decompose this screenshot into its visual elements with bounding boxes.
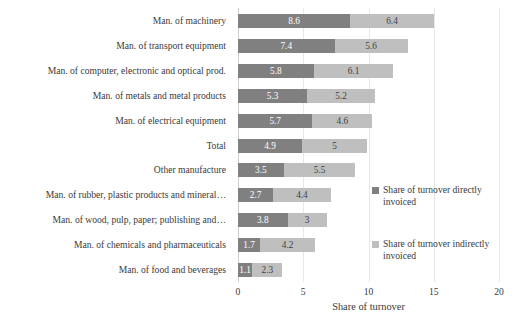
category-label: Man. of food and beverages bbox=[0, 264, 226, 276]
value-axis-tick-label: 5 bbox=[301, 286, 306, 297]
bar-value-label: 1.7 bbox=[243, 240, 255, 250]
bar-value-label: 2.3 bbox=[262, 265, 274, 275]
bar-value-label: 5 bbox=[332, 141, 337, 151]
bar-segment-indirect[interactable]: 5 bbox=[302, 139, 367, 153]
value-axis-tick-label: 20 bbox=[494, 286, 504, 297]
legend-swatch bbox=[372, 187, 379, 194]
bar-row[interactable]: 5.74.6 bbox=[238, 114, 499, 128]
bar-row[interactable]: 3.83 bbox=[238, 213, 499, 227]
bar-value-label: 4.6 bbox=[337, 116, 349, 126]
bar-segment-indirect[interactable]: 5.5 bbox=[284, 163, 356, 177]
bar-segment-direct[interactable]: 7.4 bbox=[238, 39, 335, 53]
bar-value-label: 6.4 bbox=[386, 16, 398, 26]
legend-swatch bbox=[372, 241, 379, 248]
legend-label: Share of turnover indirectly invoiced bbox=[383, 238, 509, 262]
legend-item[interactable]: Share of turnover indirectly invoiced bbox=[372, 238, 509, 262]
bar-row[interactable]: 4.95 bbox=[238, 139, 499, 153]
stacked-bar-chart: Man. of machineryMan. of transport equip… bbox=[0, 0, 521, 331]
category-label: Man. of chemicals and pharmaceuticals bbox=[0, 239, 226, 251]
bar-segment-indirect[interactable]: 4.4 bbox=[273, 188, 330, 202]
bar-row[interactable]: 5.35.2 bbox=[238, 89, 499, 103]
bar-segment-direct[interactable]: 5.7 bbox=[238, 114, 312, 128]
bar-segment-direct[interactable]: 1.7 bbox=[238, 238, 260, 252]
category-label: Other manufacture bbox=[0, 164, 226, 176]
bar-segment-indirect[interactable]: 5.6 bbox=[335, 39, 408, 53]
bar-segment-indirect[interactable]: 4.6 bbox=[312, 114, 372, 128]
bar-segment-indirect[interactable]: 3 bbox=[288, 213, 327, 227]
bar-value-label: 4.2 bbox=[282, 240, 294, 250]
legend-label: Share of turnover directly invoiced bbox=[383, 184, 509, 208]
bar-segment-indirect[interactable]: 2.3 bbox=[252, 263, 282, 277]
category-label: Man. of computer, electronic and optical… bbox=[0, 65, 226, 77]
category-label: Man. of rubber, plastic products and min… bbox=[0, 189, 226, 201]
value-axis-title: Share of turnover bbox=[238, 301, 499, 312]
bar-value-label: 5.6 bbox=[365, 41, 377, 51]
bar-segment-indirect[interactable]: 4.2 bbox=[260, 238, 315, 252]
category-label: Man. of electrical equipment bbox=[0, 115, 226, 127]
bar-value-label: 3.5 bbox=[255, 165, 267, 175]
bar-value-label: 5.7 bbox=[269, 116, 281, 126]
bar-value-label: 5.5 bbox=[314, 165, 326, 175]
bar-value-label: 3 bbox=[305, 215, 310, 225]
bar-value-label: 8.6 bbox=[288, 16, 300, 26]
value-axis-tick-label: 10 bbox=[364, 286, 374, 297]
category-label: Man. of wood, pulp, paper; publishing an… bbox=[0, 214, 226, 226]
bar-segment-indirect[interactable]: 6.4 bbox=[350, 14, 434, 28]
bar-value-label: 5.8 bbox=[270, 66, 282, 76]
bar-row[interactable]: 7.45.6 bbox=[238, 39, 499, 53]
bar-segment-direct[interactable]: 8.6 bbox=[238, 14, 350, 28]
bar-row[interactable]: 3.55.5 bbox=[238, 163, 499, 177]
legend-item[interactable]: Share of turnover directly invoiced bbox=[372, 184, 509, 208]
bar-value-label: 1.1 bbox=[239, 265, 251, 275]
category-label: Man. of metals and metal products bbox=[0, 90, 226, 102]
bar-value-label: 2.7 bbox=[250, 190, 262, 200]
value-axis-tick-label: 15 bbox=[429, 286, 439, 297]
category-label: Total bbox=[0, 140, 226, 152]
value-axis-tick-label: 0 bbox=[236, 286, 241, 297]
bar-segment-direct[interactable]: 1.1 bbox=[238, 263, 252, 277]
bar-row[interactable]: 5.86.1 bbox=[238, 64, 499, 78]
value-axis-ticks: 05101520 bbox=[238, 286, 499, 300]
bar-value-label: 5.2 bbox=[335, 91, 347, 101]
category-label: Man. of machinery bbox=[0, 15, 226, 27]
bar-segment-indirect[interactable]: 6.1 bbox=[314, 64, 394, 78]
category-label: Man. of transport equipment bbox=[0, 40, 226, 52]
bar-segment-direct[interactable]: 5.3 bbox=[238, 89, 307, 103]
bar-row[interactable]: 1.12.3 bbox=[238, 263, 499, 277]
category-axis-labels: Man. of machineryMan. of transport equip… bbox=[0, 0, 232, 282]
bar-value-label: 6.1 bbox=[348, 66, 360, 76]
bar-segment-direct[interactable]: 5.8 bbox=[238, 64, 314, 78]
bar-segment-direct[interactable]: 2.7 bbox=[238, 188, 273, 202]
bar-value-label: 4.4 bbox=[296, 190, 308, 200]
bar-value-label: 7.4 bbox=[280, 41, 292, 51]
bar-segment-direct[interactable]: 3.8 bbox=[238, 213, 288, 227]
bar-row[interactable]: 8.66.4 bbox=[238, 14, 499, 28]
bar-value-label: 3.8 bbox=[257, 215, 269, 225]
bar-segment-direct[interactable]: 4.9 bbox=[238, 139, 302, 153]
bar-segment-direct[interactable]: 3.5 bbox=[238, 163, 284, 177]
bar-value-label: 4.9 bbox=[264, 141, 276, 151]
bar-value-label: 5.3 bbox=[267, 91, 279, 101]
bar-segment-indirect[interactable]: 5.2 bbox=[307, 89, 375, 103]
